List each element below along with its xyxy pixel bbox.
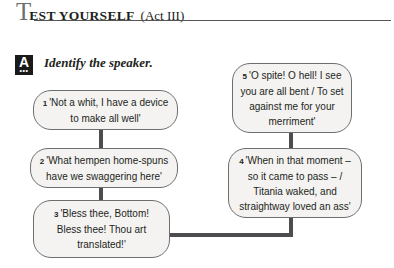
connector-2-3 (99, 187, 103, 201)
quote-box-1: 1'Not a whit, I have a device to make al… (33, 90, 178, 130)
quote-box-5: 5'O spite! O hell! I see you are all ben… (232, 63, 352, 133)
quote-text: 'What hempen home-spuns have we swaggeri… (46, 155, 168, 182)
page-title: TEST YOURSELF (Act III) (16, 0, 184, 26)
quote-number: 5 (243, 72, 247, 81)
title-underline (34, 20, 391, 21)
quote-number: 2 (40, 157, 44, 166)
instruction-heading: Identify the speaker. (44, 55, 153, 71)
quote-text: 'O spite! O hell! I see you are all bent… (240, 70, 343, 127)
connector-1-2 (99, 129, 103, 149)
quote-box-2: 2'What hempen home-spuns have we swagger… (30, 148, 178, 188)
quote-text: 'Not a whit, I have a device to make all… (49, 97, 168, 124)
quote-box-3: 3'Bless thee, Bottom! Bless thee! Thou a… (33, 200, 170, 258)
connector-3-4-vertical (289, 217, 293, 237)
badge-dots: ••• (15, 68, 33, 74)
quote-number: 4 (239, 157, 243, 166)
connector-3-4-horizontal (169, 233, 293, 237)
connector-5-4 (289, 132, 293, 149)
quote-number: 3 (54, 210, 58, 219)
section-badge-icon: A ••• (15, 55, 33, 75)
quote-box-4: 4'When in that moment – so it came to pa… (228, 148, 362, 218)
quote-text: 'Bless thee, Bottom! Bless thee! Thou ar… (57, 208, 149, 250)
quote-text: 'When in that moment – so it came to pas… (239, 155, 351, 212)
quote-number: 1 (43, 99, 47, 108)
